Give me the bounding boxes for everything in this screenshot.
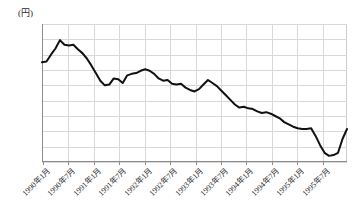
x-tick-mark [119,162,120,165]
x-tick-mark [297,162,298,165]
series-line [42,24,347,162]
chart-container: (円) 1701601501401301201101009080 1990年1月… [0,0,356,224]
x-tick-mark [221,162,222,165]
x-tick-mark [196,162,197,165]
x-tick-mark [94,162,95,165]
x-tick-mark [68,162,69,165]
x-tick-mark [272,162,273,165]
plot-area: 1701601501401301201101009080 1990年1月1990… [42,24,347,162]
gridline-horizontal [42,162,347,163]
x-tick-mark [246,162,247,165]
x-tick-mark [323,162,324,165]
x-tick-mark [170,162,171,165]
x-tick-mark [145,162,146,165]
y-axis-unit-label: (円) [18,8,33,18]
x-tick-mark [43,162,44,165]
